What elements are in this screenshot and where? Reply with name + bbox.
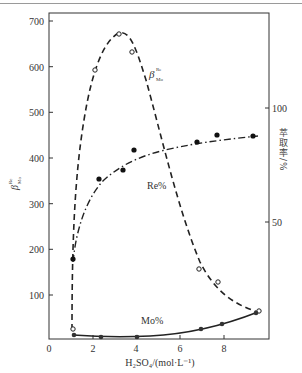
- left-axis: [49, 21, 53, 295]
- x-tick-labels: 0 2 4 6 8: [47, 343, 227, 354]
- mo-curve-label: Mo%: [141, 315, 163, 326]
- re-curve-label: Re%: [147, 180, 166, 191]
- svg-text:Mo: Mo: [156, 77, 163, 82]
- tick-label-700: 700: [29, 16, 44, 27]
- tick-label-x0: 0: [47, 343, 52, 354]
- tick-label-200: 200: [29, 244, 44, 255]
- tick-label-x8: 8: [222, 343, 227, 354]
- svg-text:β: β: [9, 185, 20, 191]
- tick-label-x6: 6: [178, 343, 183, 354]
- beta-curve-label: β Re Mo: [148, 67, 163, 82]
- re-markers: [70, 132, 255, 261]
- chart-canvas: 700 600 500 400 300 200 100 0 2 4 6 8 H₂…: [0, 0, 302, 373]
- tick-label-x2: 2: [91, 343, 96, 354]
- tick-label-600: 600: [29, 62, 44, 73]
- plot-frame: [49, 13, 269, 339]
- mo-curve: [73, 312, 258, 337]
- right-axis-title: 萃取率/%: [276, 128, 290, 172]
- right-axis: [265, 108, 269, 222]
- svg-text:Re: Re: [8, 178, 13, 184]
- svg-text:Re: Re: [156, 67, 162, 72]
- tick-label-300: 300: [29, 199, 44, 210]
- svg-text:β: β: [148, 68, 155, 80]
- left-axis-title: β Re Mo: [8, 177, 22, 191]
- tick-label-right-50: 50: [272, 217, 282, 228]
- tick-label-500: 500: [29, 107, 44, 118]
- x-axis-title: H₂SO₄/(mol·L⁻¹): [125, 357, 194, 369]
- tick-label-right-100: 100: [272, 103, 287, 114]
- tick-label-x4: 4: [134, 343, 139, 354]
- svg-text:Mo: Mo: [17, 177, 22, 184]
- tick-label-400: 400: [29, 153, 44, 164]
- left-tick-labels: 700 600 500 400 300 200 100: [29, 16, 44, 301]
- tick-label-100: 100: [29, 290, 44, 301]
